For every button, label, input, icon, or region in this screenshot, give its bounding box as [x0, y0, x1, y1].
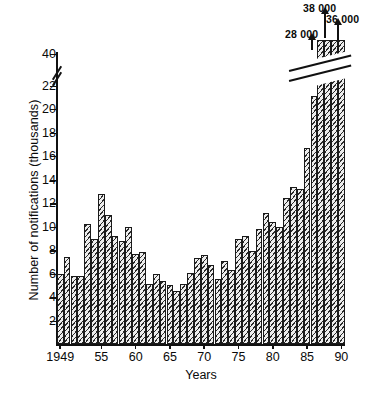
bar-1985	[304, 148, 311, 344]
x-tick-label-1990: 90	[316, 350, 366, 364]
bar-1950	[64, 257, 71, 344]
y-tick-14: 14	[0, 174, 56, 186]
bar-1951	[71, 276, 78, 344]
y-tick-mark-40	[50, 54, 56, 55]
x-tick-mark-1985	[306, 344, 308, 349]
bar-1964	[160, 281, 167, 345]
bar-1956	[105, 215, 112, 344]
y-tick-mark-6	[50, 274, 56, 275]
y-tick-22: 22	[0, 80, 56, 92]
y-tick-18: 18	[0, 127, 56, 139]
bar-1972	[215, 279, 222, 344]
bar-1955	[98, 194, 105, 344]
plot-area	[57, 0, 345, 344]
bar-1970	[201, 255, 208, 344]
y-tick-mark-12	[50, 203, 56, 204]
annotation-arrow-36000	[337, 23, 339, 40]
y-tick-mark-18	[50, 133, 56, 134]
bar-1949	[57, 274, 64, 345]
y-tick-4: 4	[0, 291, 56, 303]
y-tick-mark-8	[50, 250, 56, 251]
bar-1961	[139, 252, 146, 344]
bar-1990	[338, 40, 345, 344]
bar-1959	[125, 227, 132, 344]
bar-1981	[276, 227, 283, 345]
bar-1965	[167, 285, 174, 344]
x-tick-mark-1970	[203, 344, 205, 349]
bar-1988	[324, 40, 331, 344]
y-tick-6: 6	[0, 268, 56, 280]
x-tick-mark-1980	[272, 344, 274, 349]
bar-1968	[187, 273, 194, 344]
x-axis-line	[56, 344, 345, 346]
y-tick-8: 8	[0, 244, 56, 256]
bar-1977	[249, 251, 256, 345]
bar-1954	[91, 239, 98, 344]
bar-1967	[180, 284, 187, 344]
bar-1971	[208, 265, 215, 344]
bar-1984	[297, 189, 304, 344]
bar-1978	[256, 229, 263, 344]
y-tick-mark-2	[50, 321, 56, 322]
y-tick-40: 40	[0, 48, 56, 60]
y-tick-mark-10	[50, 227, 56, 228]
bar-1976	[242, 236, 249, 345]
y-tick-mark-4	[50, 297, 56, 298]
x-tick-mark-1965	[169, 344, 171, 349]
bar-1960	[132, 254, 139, 345]
y-tick-mark-20	[50, 109, 56, 110]
bar-1983	[290, 187, 297, 344]
y-tick-16: 16	[0, 150, 56, 162]
y-tick-10: 10	[0, 221, 56, 233]
x-tick-mark-1960	[135, 344, 137, 349]
chart-figure: Number of notifications (thousands) Year…	[0, 0, 375, 395]
bar-1986	[311, 96, 318, 344]
y-tick-20: 20	[0, 103, 56, 115]
x-axis-label: Years	[56, 368, 346, 382]
y-tick-2: 2	[0, 315, 56, 327]
bar-1982	[283, 198, 290, 345]
annotation-arrow-28000	[311, 38, 313, 50]
bar-1973	[221, 261, 228, 345]
bar-1952	[77, 276, 84, 345]
y-tick-mark-14	[50, 180, 56, 181]
bar-1953	[84, 224, 91, 345]
bar-1980	[269, 222, 276, 344]
x-tick-mark-1990	[341, 344, 343, 349]
x-tick-mark-1949	[59, 344, 61, 349]
bar-1987	[317, 40, 324, 344]
bar-1962	[146, 284, 153, 344]
bar-1989	[331, 40, 338, 344]
y-tick-mark-16	[50, 156, 56, 157]
x-tick-mark-1955	[101, 344, 103, 349]
x-tick-mark-1975	[238, 344, 240, 349]
bar-1958	[119, 241, 126, 345]
bar-1979	[263, 213, 270, 345]
bar-1957	[112, 236, 119, 344]
bar-1963	[153, 274, 160, 344]
annotation-label-36000: 36 000	[326, 13, 359, 25]
bar-1975	[235, 239, 242, 344]
bar-1974	[228, 270, 235, 344]
y-tick-12: 12	[0, 197, 56, 209]
bar-1966	[173, 291, 180, 345]
bar-1969	[194, 258, 201, 344]
